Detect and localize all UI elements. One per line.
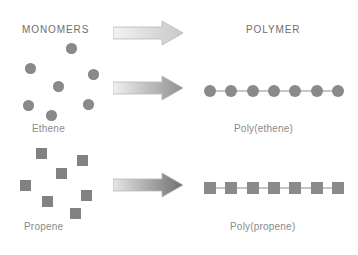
label-propene: Propene [24, 222, 63, 232]
polymer-chain-ethene [210, 83, 338, 99]
polymer-unit-ethene-7 [332, 85, 344, 97]
polymer-unit-ethene-3 [247, 85, 259, 97]
monomer-propene-3 [56, 168, 67, 179]
polymer-unit-propene-5 [289, 182, 301, 194]
label-poly-propene: Poly(propene) [230, 222, 295, 232]
monomer-ethene-6 [83, 99, 94, 110]
polymerisation-diagram: MONOMERS POLYMER Ethene Propene Poly(eth… [0, 0, 358, 255]
polymer-heading: POLYMER [246, 25, 300, 35]
polymer-unit-propene-2 [225, 182, 237, 194]
monomer-ethene-3 [88, 69, 99, 80]
monomer-ethene-7 [46, 110, 57, 121]
polymer-unit-propene-6 [311, 182, 323, 194]
monomer-propene-4 [20, 180, 31, 191]
monomer-ethene-5 [23, 100, 34, 111]
polymer-unit-propene-4 [268, 182, 280, 194]
polymer-unit-ethene-1 [204, 85, 216, 97]
polymer-chain-propene [210, 180, 338, 196]
monomer-propene-5 [81, 190, 92, 201]
polymer-unit-propene-3 [247, 182, 259, 194]
monomer-propene-6 [42, 196, 53, 207]
polymer-unit-propene-1 [204, 182, 216, 194]
polymer-unit-ethene-5 [289, 85, 301, 97]
polymer-unit-ethene-2 [225, 85, 237, 97]
monomer-ethene-1 [66, 43, 77, 54]
arrow-ethene-polymerisation [113, 75, 183, 101]
label-poly-ethene: Poly(ethene) [234, 124, 293, 134]
arrow-top [113, 20, 183, 46]
arrow-propene-polymerisation [113, 172, 183, 198]
monomer-ethene-2 [25, 63, 36, 74]
monomer-propene-7 [70, 208, 81, 219]
monomer-propene-1 [36, 148, 47, 159]
monomer-ethene-4 [53, 81, 64, 92]
monomers-heading: MONOMERS [22, 25, 89, 35]
label-ethene: Ethene [32, 124, 65, 134]
polymer-unit-ethene-6 [311, 85, 323, 97]
polymer-unit-propene-7 [332, 182, 344, 194]
polymer-unit-ethene-4 [268, 85, 280, 97]
monomer-propene-2 [77, 155, 88, 166]
